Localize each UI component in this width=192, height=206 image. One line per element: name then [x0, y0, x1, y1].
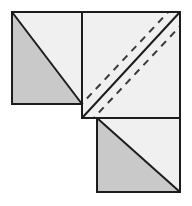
geometric-figure [0, 0, 192, 206]
center-square [78, 8, 184, 122]
figure-container [0, 0, 192, 206]
top-left-square [12, 12, 82, 104]
bottom-right-square [97, 118, 180, 192]
